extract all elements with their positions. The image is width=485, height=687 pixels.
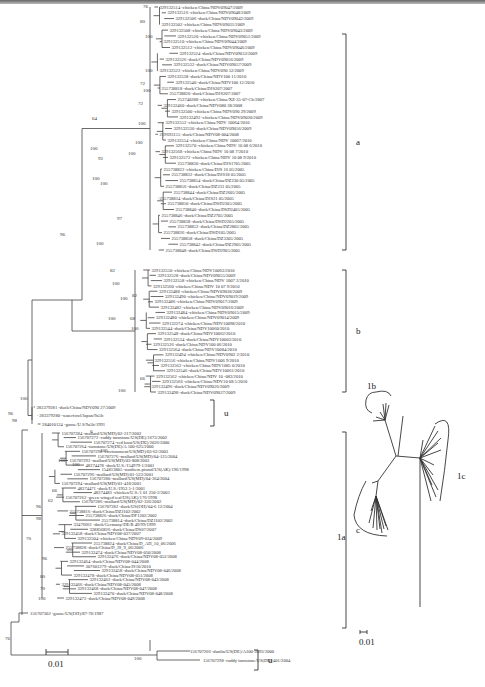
bootstrap-value: 100 — [135, 140, 143, 145]
leaf-label: 283379281 -duck/China/NDV090 27/2009 — [37, 405, 117, 410]
bootstrap-value: 100 — [134, 656, 142, 661]
leaf-label: 255738854 -duck/China/DZ230 05/2005 — [180, 178, 256, 183]
bootstrap-value: 100 — [100, 448, 108, 453]
leaf-label: 255738848 -duck/China/DSD2905/2005 — [166, 248, 241, 253]
bootstrap-value: 100 — [145, 34, 153, 39]
bootstrap-value: 100 — [92, 176, 100, 181]
leaf-label: 329132274 -chicken/China/NDV10098/2010 — [162, 321, 246, 326]
bootstrap-value: 97 — [117, 216, 123, 221]
leaf-label: 329132526 -duck/China/NDV09056/2009 — [166, 57, 244, 62]
bootstrap-value: 80 — [140, 19, 146, 24]
leaf-label: 329132546 -duck/China/NDV10061/2010 — [167, 368, 245, 373]
leaf-label: 329132500 -chicken/China/NDV090 29/2009 — [172, 109, 257, 114]
leaf-labels: 329132514 -chicken/China/NDV09047/200932… — [30, 5, 291, 663]
clade-label-b: b — [356, 326, 361, 336]
leaf-label: 255738846 -duck/China/DZ2705/2005 — [162, 213, 234, 218]
phylogenetic-figure: 329132514 -chicken/China/NDV09047/200932… — [0, 0, 485, 687]
leaf-label: 329132536 -duck/China/NDV100 06/2010 — [153, 342, 233, 347]
clade-labels: abucu — [224, 137, 361, 665]
scale-bar-right-label: 0.01 — [359, 637, 375, 647]
leaf-label: 329132540 -duck/China/NDV100 12/2010 — [176, 80, 256, 85]
leaf-label: 329132552 -chicken/China/NDV 10064/2010 — [166, 120, 251, 125]
clade-label-u: u — [268, 655, 273, 665]
leaf-label: 329132562 -chicken/China/NDV 10 -083/201… — [156, 374, 244, 379]
leaf-label: 329132502 -chicken/China/NDV09031/2009 — [162, 22, 246, 27]
clade-label-1b: 1b — [367, 381, 377, 391]
bootstrap-value: 98 — [36, 516, 42, 521]
bootstrap-value: 96 — [42, 556, 48, 561]
leaf-label: 329132572 -chicken/China/NDV 10 08 9/201… — [170, 155, 257, 160]
leaf-label: 255738842 -duck/China/DZ2905/2005 — [180, 242, 252, 247]
bootstrap-value: 100 — [38, 596, 46, 601]
leaf-label: 329132528 -duck/China/NDV09055/2009 — [158, 273, 236, 278]
leaf-label: 253740288 -chicken/China/XZ-35-07-Ch/200… — [178, 97, 266, 102]
leaf-label: 329132556 -chicken/China/NDV1006 9/2010 — [155, 358, 240, 363]
clade-label-a: a — [356, 137, 360, 147]
bootstrap-value: 100 — [96, 241, 104, 246]
bootstrap-value: 70 — [26, 536, 32, 541]
leaf-label: 329132530 -duck/China/NDV09056/2009 — [174, 126, 252, 131]
bootstrap-value: 92 — [98, 156, 104, 161]
leaf-label: 329132510 -chicken/China/NDV09044/2009 — [164, 39, 248, 44]
bootstrap-value: 96 — [36, 504, 42, 509]
leaf-label: 255738856 -duck/China/DZ231 05/2005 — [166, 184, 242, 189]
leaf-label: 255738832 -duck/China/DJS18 05/2005 — [172, 172, 247, 177]
bootstrap-value: 82 — [132, 293, 138, 298]
leaf-label: 156707266 -dunlin/US(DE)/A100-2093/2000 — [190, 649, 275, 654]
leaf-label: 329132568 -chicken/China/NDV 10 08 7/201… — [162, 149, 249, 154]
bootstrap-value: 100 — [20, 396, 28, 401]
bootstrap-value: 70 — [40, 586, 46, 591]
leaf-label: 255738840 -duck/China/DSD2405/2005 — [176, 207, 251, 212]
leaf-label: 329132508 -chicken/China/NDV09043/2009 — [170, 28, 254, 33]
leaf-label: 329132558 -chicken/China/NDV 1007 2/2010 — [164, 278, 250, 283]
leaf-label: 329132520 -chicken/China/NDV09051/2009 — [178, 34, 262, 39]
clade-label-1c: 1c — [457, 471, 466, 481]
bootstrap-value: 66 — [140, 376, 146, 381]
bootstrap-value: 96 — [8, 411, 14, 416]
bootstrap-value: 100 — [138, 121, 146, 126]
leaf-label: 329132544 -duck/China/NDV10060/2010 — [152, 326, 230, 331]
leaf-label: 329132532 -duck/China/NDV09057/2009 — [174, 62, 252, 67]
scale-bar-left-label: 0.01 — [48, 659, 64, 669]
scale-bar-right: 0.01 — [359, 630, 375, 647]
bootstrap-value: 100 — [90, 146, 98, 151]
bootstrap-value: 82 — [110, 268, 116, 273]
leaf-label: 329132496 -duck/China/NDV09026/2009 — [152, 384, 230, 389]
scale-bar-left: 0.01 — [46, 649, 68, 669]
leaf-label: 255738836 -duck/China/DSD105/2005 — [164, 230, 237, 235]
leaf-label: 329132512 -chicken/China/NDV09046/2009 — [172, 45, 256, 50]
leaf-label: 255738858 -duck/China/DZ3305/2005 — [172, 236, 244, 241]
bootstrap-value: 80 — [40, 574, 46, 579]
bootstrap-value: 100 — [100, 181, 108, 186]
clade-label-1a: 1a — [337, 532, 346, 542]
right-unrooted-tree — [354, 391, 449, 607]
bootstrap-value: 100 — [128, 151, 136, 156]
leaf-label: 329132484 -chicken/China/NDV09015/2009 — [167, 310, 251, 315]
leaf-label: 329132460 -duck/China/NDV080 38/2008 — [164, 103, 244, 108]
leaf-label: 329132554 -chicken/China/NDV 10067/2010 — [168, 138, 253, 143]
bootstrap-value: 100 — [145, 68, 153, 73]
bootstrap-value: 100 — [72, 462, 80, 467]
leaf-label: 329132490 -chicken/China/NDV09019/2009 — [165, 294, 249, 299]
leaf-label: 329132516 -chicken/China/NDV09048/2009 — [168, 10, 252, 15]
leaf-label: 329132486 -chicken/China/NDV09017/2009 — [155, 299, 239, 304]
clade-label-u: u — [224, 408, 229, 418]
leaf-label: 329132522 -chicken/China/NDV090 52/2009 — [160, 68, 245, 73]
leaf-label: 329132548 -duck/China/NDV10062/2010 — [158, 331, 236, 336]
leaf-label: 255738818 -duck/China/DJS207/2007 — [162, 86, 234, 91]
leaf-label: 329132482 -chicken/China/NDV09016/2009 — [161, 305, 245, 310]
bootstrap-value: 64 — [92, 116, 98, 121]
leaf-label: 255738844 -duck/China/DZ2605/2005 — [174, 190, 246, 195]
leaf-label: 329132550 -chicken/China/NDV10063/2010 — [152, 268, 236, 273]
leaf-label: 255738834 -duck/China/DJS21 05/2005 — [160, 196, 235, 201]
leaf-label: 329132562 -chicken/China/NDV1085 0/2010 — [161, 363, 246, 368]
leaf-label: 329132498 -duck/China/NDV09027/2009 — [158, 390, 236, 395]
bootstrap-value: 76 — [5, 636, 11, 641]
leaf-label: 255738852 -duck/China/DZ2805/2005 — [178, 224, 250, 229]
leaf-label: 255738850 -duck/China/DSD2305/2005 — [168, 201, 243, 206]
leaf-label: 329132492 -chicken/China/NDV09020/2009 — [180, 115, 264, 120]
leaf-label: 329132480 -chicken/China/NDV09014/2009 — [156, 315, 240, 320]
bootstrap-value: 100 — [131, 326, 139, 331]
leaf-label: 255738822 -chicken/China/DJS 16 05/2005 — [164, 167, 245, 172]
leaf-label: 284010124 -goose/U.S/9a5b/1991 — [42, 422, 106, 427]
